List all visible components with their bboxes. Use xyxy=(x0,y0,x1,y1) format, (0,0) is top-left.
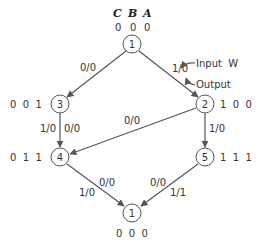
header-label-a: A xyxy=(142,7,152,20)
node-5-label: 5 xyxy=(202,152,208,163)
edge-label-5-1-right: 1/1 xyxy=(170,187,186,198)
edge-label-1-3: 0/0 xyxy=(80,62,96,73)
annotation-output: Output xyxy=(196,79,231,90)
state-diagram: C B A 0 0 0 0/0 1/0 1/0 0/0 0/0 1/0 1/0 … xyxy=(0,0,266,247)
header-label-b: B xyxy=(127,7,137,20)
annotation-input: Input W xyxy=(196,58,238,69)
diagram-svg: C B A 0 0 0 0/0 1/0 1/0 0/0 0/0 1/0 1/0 … xyxy=(0,0,266,247)
edge-4-1 xyxy=(67,164,124,206)
edge-1-2 xyxy=(139,51,198,97)
edge-label-5-1-left: 0/0 xyxy=(150,177,166,188)
edge-label-2-4: 0/0 xyxy=(124,115,140,126)
node-3-label: 3 xyxy=(57,99,63,110)
edge-label-4-1-right: 0/0 xyxy=(99,177,115,188)
node-1-bottom-code: 0 0 0 xyxy=(116,228,148,239)
node-5-code: 1 1 1 xyxy=(220,152,252,163)
initial-code-c: 0 xyxy=(115,22,121,33)
output-pointer-arrow xyxy=(186,78,195,85)
node-1-top-label: 1 xyxy=(129,39,135,50)
node-2-code: 1 0 0 xyxy=(220,99,252,110)
header-label-c: C xyxy=(113,7,122,20)
edge-label-4-1-left: 1/0 xyxy=(79,187,95,198)
node-1-bottom-label: 1 xyxy=(129,208,135,219)
edge-label-2-5: 1/0 xyxy=(209,123,225,134)
edge-1-3 xyxy=(67,51,126,97)
node-4-label: 4 xyxy=(57,152,63,163)
node-3-code: 0 0 1 xyxy=(10,99,42,110)
initial-code-b: 0 xyxy=(130,22,136,33)
node-2-label: 2 xyxy=(202,99,208,110)
edge-label-3-4-left: 1/0 xyxy=(40,123,56,134)
initial-code-a: 0 xyxy=(144,22,150,33)
edge-label-3-4-right: 0/0 xyxy=(64,123,80,134)
node-4-code: 0 1 1 xyxy=(10,152,42,163)
